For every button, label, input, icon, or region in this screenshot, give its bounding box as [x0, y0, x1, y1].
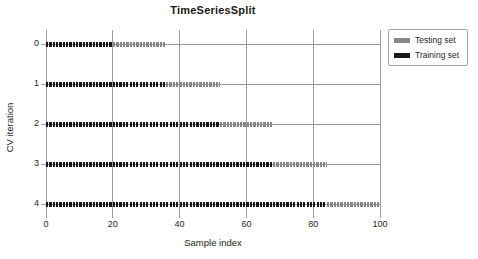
training-set-segment [46, 42, 113, 47]
testing-set-swatch [394, 38, 410, 43]
training-set-segment [46, 122, 220, 127]
legend-label-testing: Testing set [415, 35, 456, 45]
y-tick-label: 2 [25, 118, 39, 128]
testing-set-segment [220, 122, 273, 127]
x-axis-label: Sample index [46, 237, 380, 248]
training-set-segment [46, 82, 166, 87]
y-tick-label: 1 [25, 78, 39, 88]
testing-set-segment [327, 202, 380, 207]
x-tick-label: 0 [31, 219, 61, 229]
training-set-segment [46, 202, 327, 207]
y-axis-label: CV iteration [4, 73, 15, 183]
training-set-swatch [394, 53, 410, 58]
x-tick-label: 20 [98, 219, 128, 229]
testing-set-segment [113, 42, 166, 47]
timeseriessplit-figure: TimeSeriesSplit CV iteration 02040608010… [0, 0, 478, 259]
y-tick-label: 4 [25, 198, 39, 208]
legend-entry-training: Training set [394, 50, 462, 60]
x-tick-label: 60 [231, 219, 261, 229]
x-tick-label: 40 [165, 219, 195, 229]
testing-set-segment [273, 162, 326, 167]
legend-entry-testing: Testing set [394, 35, 462, 45]
x-tick-label: 80 [298, 219, 328, 229]
chart-title: TimeSeriesSplit [46, 4, 380, 16]
legend-label-training: Training set [415, 50, 459, 60]
x-tick-label: 100 [365, 219, 395, 229]
testing-set-segment [166, 82, 219, 87]
training-set-segment [46, 162, 273, 167]
legend: Testing set Training set [388, 29, 468, 66]
y-tick-label: 3 [25, 158, 39, 168]
y-tick-label: 0 [25, 38, 39, 48]
